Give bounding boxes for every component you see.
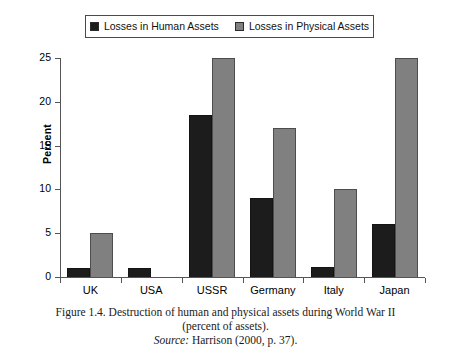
bar-group <box>121 58 182 277</box>
bar-groups <box>60 58 425 277</box>
bar <box>311 267 334 278</box>
bar <box>128 268 151 277</box>
x-axis-category-label: USA <box>121 284 182 300</box>
bar-group <box>182 58 243 277</box>
y-axis-tick-label: 25 <box>25 51 51 63</box>
x-axis-tick <box>60 278 61 283</box>
x-axis-category-labels: UKUSAUSSRGermanyItalyJapan <box>60 284 425 300</box>
figure-caption: Figure 1.4. Destruction of human and phy… <box>18 305 433 347</box>
caption-source: Source: Harrison (2000, p. 37). <box>18 333 433 347</box>
bar-group <box>364 58 425 277</box>
bar <box>212 58 235 277</box>
bar-group <box>303 58 364 277</box>
bar-group <box>60 58 121 277</box>
x-axis-category-label: Japan <box>364 284 425 300</box>
x-axis-tick <box>364 278 365 283</box>
caption-source-word: Source: <box>154 334 189 346</box>
caption-source-text: Harrison (2000, p. 37). <box>189 334 297 346</box>
bar <box>90 233 113 277</box>
x-axis-tick <box>182 278 183 283</box>
bar <box>273 128 296 277</box>
y-axis-tick-label: 10 <box>25 182 51 194</box>
caption-line-1: Figure 1.4. Destruction of human and phy… <box>18 305 433 319</box>
bar <box>250 198 273 277</box>
x-axis-category-label: UK <box>60 284 121 300</box>
x-axis-category-label: Italy <box>303 284 364 300</box>
y-axis-tick-label: 5 <box>25 226 51 238</box>
x-axis-category-label: USSR <box>182 284 243 300</box>
x-axis-tick <box>243 278 244 283</box>
x-axis-tick <box>303 278 304 283</box>
bar <box>372 224 395 277</box>
y-axis-tick-label: 15 <box>25 139 51 151</box>
bar-group <box>242 58 303 277</box>
y-axis-tick-label: 0 <box>25 270 51 282</box>
caption-line-2: (percent of assets). <box>18 319 433 333</box>
bar <box>395 58 418 277</box>
x-axis-tick <box>425 278 426 283</box>
x-axis-tick <box>121 278 122 283</box>
y-axis-tick-label: 20 <box>25 95 51 107</box>
bar-chart: Percent 0510152025 UKUSAUSSRGermanyItaly… <box>0 0 451 300</box>
bar <box>67 268 90 277</box>
bar <box>189 115 212 277</box>
bar <box>334 189 357 277</box>
x-axis-category-label: Germany <box>242 284 303 300</box>
